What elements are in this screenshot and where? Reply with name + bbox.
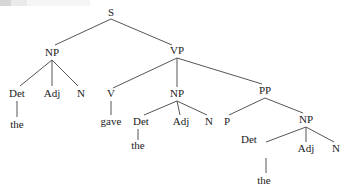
node-adj2: Adj [173,115,190,127]
tree-edge [265,98,303,113]
tree-edge [111,19,172,45]
tree-edge [113,58,177,88]
tree-edge [20,60,52,86]
tree-edge [55,19,111,45]
node-adj1: Adj [44,87,61,99]
node-the3: the [257,174,271,185]
tree-edge [266,127,306,142]
tree-labels: SNPVPDetAdjNtheVgaveNPDetAdjNthePPPNPDet… [9,6,340,185]
node-np2: NP [170,87,184,99]
node-the1: the [10,118,24,130]
node-np1: NP [45,46,59,58]
node-s: S [108,6,114,18]
node-p: P [224,115,230,127]
node-n2: N [205,115,213,127]
node-gave: gave [101,115,122,127]
node-n3: N [332,142,340,154]
node-v: V [107,87,115,99]
tree-edge [306,127,334,142]
tree-edge [177,101,180,115]
node-vp: VP [170,44,184,56]
tree-edge [144,101,177,115]
tree-edge [177,58,262,84]
node-n1: N [77,87,85,99]
syntax-tree: SNPVPDetAdjNtheVgaveNPDetAdjNthePPPNPDet… [0,0,348,185]
tree-edge [229,98,265,115]
node-the2: the [131,139,145,151]
node-pp: PP [259,84,271,96]
node-np3: NP [299,113,313,125]
tree-edge [177,101,207,115]
node-det3: Det [241,133,257,145]
node-adj3: Adj [298,142,315,154]
node-det1: Det [9,87,25,99]
tree-edge [52,60,78,86]
node-det2: Det [133,115,149,127]
